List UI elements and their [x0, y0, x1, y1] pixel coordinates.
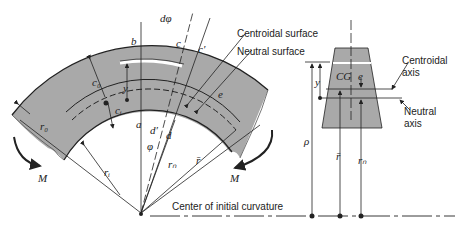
sym-y: y: [122, 82, 128, 94]
sym-e-section: e: [358, 70, 363, 82]
label-centroidal-axis-2: axis: [402, 67, 420, 78]
sym-rn: rₙ: [168, 158, 177, 170]
sym-rn-section: rₙ: [358, 154, 367, 166]
label-centroidal-surface: Centroidal surface: [237, 28, 319, 39]
label-center: Center of initial curvature: [172, 201, 284, 212]
cross-section: [305, 20, 410, 219]
sym-b: b: [131, 35, 137, 47]
sym-ri: rᵢ: [104, 166, 110, 178]
sym-rbar-section: r̄: [336, 150, 341, 162]
moment-arrow-left: [14, 137, 40, 166]
sym-c: c: [176, 37, 181, 49]
curved-beam-diagram: Centroidal surface Neutral surface Centr…: [0, 0, 460, 228]
sym-dphi: dφ: [160, 12, 172, 24]
curved-beam: [12, 46, 268, 160]
sym-d-prime: d′: [150, 124, 159, 136]
sym-d: d: [166, 129, 172, 141]
sym-a: a: [136, 118, 142, 130]
sym-c-prime: c′: [198, 43, 206, 55]
label-neutral-axis-2: axis: [404, 118, 422, 129]
sym-y-section: y: [314, 76, 320, 88]
sym-M-right: M: [229, 172, 240, 184]
label-neutral-axis-1: Neutral: [404, 106, 436, 117]
sym-co: c₀: [92, 76, 101, 88]
sym-M-left: M: [37, 172, 48, 184]
sym-ro: r₀: [40, 120, 48, 132]
label-neutral-surface: Neutral surface: [237, 46, 305, 57]
sym-rho: ρ: [303, 135, 309, 147]
sym-rbar: r̄: [196, 154, 201, 166]
sym-e: e: [218, 88, 223, 100]
sym-CG: CG: [336, 70, 351, 82]
sym-ci: cᵢ: [115, 104, 122, 116]
label-centroidal-axis-1: Centroidal: [402, 55, 448, 66]
sym-phi: φ: [147, 140, 153, 152]
